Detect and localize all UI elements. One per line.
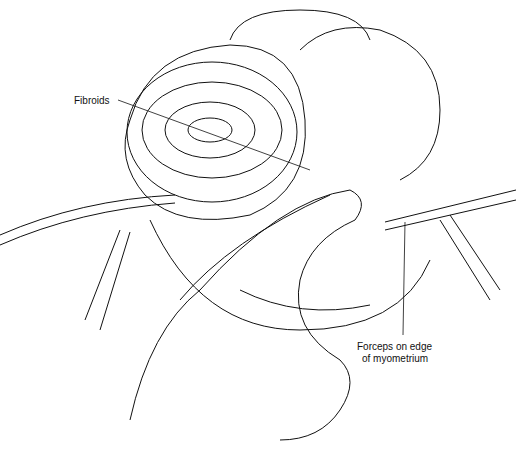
- fibroid-large: [125, 45, 305, 220]
- left-clamp: [0, 195, 175, 235]
- hand: [130, 190, 361, 440]
- forceps-label-line2: of myometrium: [362, 353, 428, 365]
- forceps-label-line1: Forceps on edge: [357, 341, 432, 353]
- forceps: [385, 190, 516, 222]
- surgical-illustration: [0, 0, 516, 453]
- fibroids-label: Fibroids: [74, 95, 110, 107]
